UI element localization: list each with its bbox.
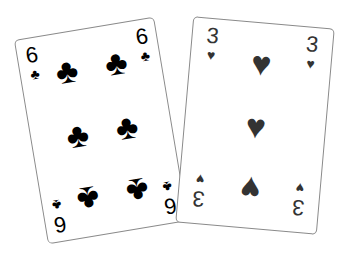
rank-label: 3 (191, 187, 205, 210)
club-icon: ♣ (139, 48, 150, 63)
playing-card-six-of-clubs[interactable]: 6 ♣ 6 ♣ 6 ♣ 6 ♣ ♣ ♣ ♣ ♣ ♣ ♣ (14, 17, 188, 245)
corner-index-top-right: 3 ♥ (304, 33, 319, 71)
club-pip-icon: ♣ (102, 44, 130, 81)
rank-label: 3 (291, 196, 305, 219)
corner-index-top-right: 6 ♣ (134, 25, 152, 64)
rank-label: 6 (52, 212, 68, 236)
club-pip-icon: ♣ (64, 116, 92, 153)
club-pip-icon: ♣ (53, 52, 81, 89)
club-pip-icon: ♣ (113, 108, 141, 145)
heart-icon: ♥ (306, 56, 316, 71)
club-icon: ♣ (51, 198, 62, 213)
corner-index-bottom-right: 3 ♥ (291, 181, 306, 219)
club-pip-icon: ♣ (124, 172, 152, 209)
corner-index-top-left: 6 ♣ (24, 44, 42, 83)
heart-icon: ♥ (206, 48, 216, 63)
heart-pip-icon: ♥ (239, 171, 262, 207)
rank-label: 3 (305, 33, 319, 56)
club-icon: ♣ (161, 179, 172, 194)
club-pip-icon: ♣ (74, 180, 102, 217)
heart-icon: ♥ (295, 181, 305, 196)
corner-index-top-left: 3 ♥ (204, 24, 219, 62)
rank-label: 6 (134, 25, 150, 49)
heart-pip-icon: ♥ (250, 46, 273, 82)
corner-index-bottom-left: 6 ♣ (50, 197, 68, 236)
club-icon: ♣ (29, 66, 40, 81)
heart-pip-icon: ♥ (244, 108, 267, 144)
playing-card-three-of-hearts[interactable]: 3 ♥ 3 ♥ 3 ♥ 3 ♥ ♥ ♥ ♥ (175, 16, 335, 235)
corner-index-bottom-left: 3 ♥ (191, 172, 206, 210)
rank-label: 3 (206, 24, 220, 47)
rank-label: 6 (24, 44, 40, 68)
heart-icon: ♥ (195, 172, 205, 187)
